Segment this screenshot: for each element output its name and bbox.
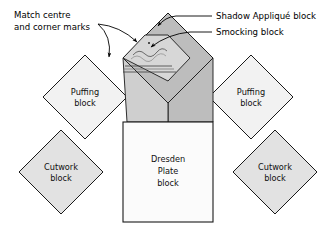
dresden-label-line2: Plate bbox=[158, 166, 178, 176]
callout-smocking: Smocking block bbox=[216, 27, 284, 37]
block-dresden-plate: Dresden Plate block bbox=[123, 122, 213, 222]
callout-shadow-applique: Shadow Appliqué block bbox=[216, 11, 316, 21]
dresden-label-line3: block bbox=[157, 178, 179, 188]
cutwork-right-label-line1: Cutwork bbox=[258, 162, 292, 172]
callout-match-marks-line1: Match centre bbox=[14, 10, 70, 20]
puffing-right-label-line1: Puffing bbox=[237, 87, 265, 97]
puffing-right-label-line2: block bbox=[240, 98, 262, 108]
cutwork-left-label-line2: block bbox=[50, 173, 72, 183]
callout-match-marks-line2: and corner marks bbox=[14, 22, 90, 32]
cutwork-left-label-line1: Cutwork bbox=[44, 162, 78, 172]
cutwork-right-label-line2: block bbox=[264, 173, 286, 183]
quilt-diagram-canvas: Cutwork block Cutwork block Puffing bloc… bbox=[0, 0, 336, 243]
puffing-left-label-line2: block bbox=[74, 98, 96, 108]
quilt-layout-diagram: Cutwork block Cutwork block Puffing bloc… bbox=[0, 0, 336, 243]
puffing-left-label-line1: Puffing bbox=[71, 87, 99, 97]
dresden-label-line1: Dresden bbox=[151, 154, 185, 164]
